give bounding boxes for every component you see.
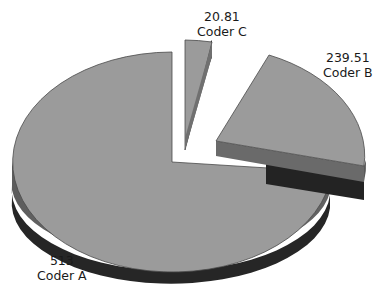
label-coder-a-value: 513 xyxy=(37,253,87,268)
label-coder-a-name: Coder A xyxy=(37,268,87,283)
label-coder-c-name: Coder C xyxy=(197,24,247,39)
label-coder-b-value: 239.51 xyxy=(323,50,373,65)
label-coder-b: 239.51 Coder B xyxy=(323,50,373,80)
label-coder-a: 513 Coder A xyxy=(37,253,87,283)
label-coder-b-name: Coder B xyxy=(323,65,373,80)
slice-coder-c xyxy=(185,40,212,150)
label-coder-c: 20.81 Coder C xyxy=(197,9,247,39)
label-coder-c-value: 20.81 xyxy=(197,9,247,24)
pie-chart xyxy=(0,0,387,294)
